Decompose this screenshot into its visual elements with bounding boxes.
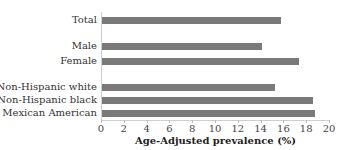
x-tick-label: 6 — [159, 124, 179, 134]
bar-total — [102, 17, 281, 24]
x-tick-label: 8 — [182, 124, 202, 134]
category-label-non-hispanic-black: Non-Hispanic black — [0, 95, 97, 105]
category-label-total: Total — [72, 15, 97, 25]
bar-non-hispanic-black — [102, 97, 313, 104]
x-tick-label: 14 — [251, 124, 271, 134]
bar-non-hispanic-white — [102, 84, 275, 91]
horizontal-bar-chart: Total Male Female Non-Hispanic white Non… — [0, 0, 351, 150]
category-label-mexican-american: Mexican American — [2, 108, 97, 118]
x-axis-label: Age-Adjusted prevalence (%) — [101, 136, 330, 146]
bar-mexican-american — [102, 110, 315, 117]
x-tick-label: 18 — [296, 124, 316, 134]
x-tick-label: 0 — [91, 124, 111, 134]
bar-male — [102, 43, 262, 50]
category-label-male: Male — [72, 41, 97, 51]
category-label-female: Female — [60, 56, 97, 66]
x-tick-label: 2 — [114, 124, 134, 134]
x-tick-label: 20 — [319, 124, 339, 134]
x-tick-label: 16 — [273, 124, 293, 134]
bar-female — [102, 58, 299, 65]
y-axis-line — [101, 12, 102, 121]
x-tick-label: 12 — [228, 124, 248, 134]
x-tick-label: 10 — [205, 124, 225, 134]
category-label-non-hispanic-white: Non-Hispanic white — [0, 82, 97, 92]
x-tick-label: 4 — [137, 124, 157, 134]
